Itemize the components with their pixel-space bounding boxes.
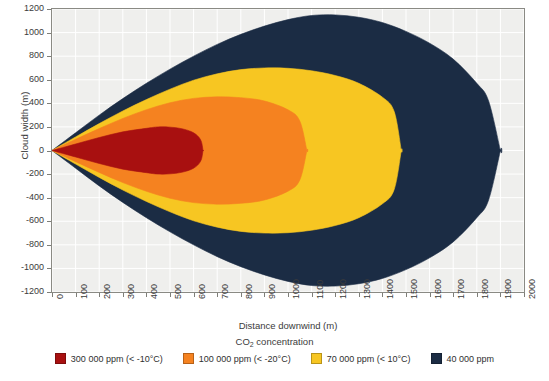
x-tick-label: 1200	[339, 279, 348, 299]
y-tick-label: -600	[0, 216, 44, 225]
legend-swatch-icon	[311, 353, 322, 364]
x-tick-label: 600	[198, 284, 207, 299]
y-tick-label: 800	[0, 51, 44, 60]
x-tick-label: 1500	[410, 279, 419, 299]
y-tick-label: -200	[0, 169, 44, 178]
y-tick-label: 600	[0, 75, 44, 84]
x-tick-mark	[123, 293, 124, 297]
x-tick-mark	[217, 293, 218, 297]
legend-item[interactable]: 100 000 ppm (< -20°C)	[183, 353, 291, 364]
legend-item-label: 300 000 ppm (< -10°C)	[71, 354, 163, 364]
x-tick-mark	[288, 293, 289, 297]
x-tick-label: 800	[245, 284, 254, 299]
x-tick-mark	[453, 293, 454, 297]
x-tick-mark	[382, 293, 383, 297]
x-tick-label: 1800	[481, 279, 490, 299]
x-tick-mark	[406, 293, 407, 297]
x-tick-label: 2000	[528, 279, 537, 299]
legend-item-label: 100 000 ppm (< -20°C)	[199, 354, 291, 364]
x-tick-label: 1900	[504, 279, 513, 299]
chart-container: Cloud width (m) 120010008006004002000-20…	[0, 0, 549, 381]
y-tick-label: -800	[0, 240, 44, 249]
x-tick-mark	[194, 293, 195, 297]
x-tick-mark	[76, 293, 77, 297]
x-tick-label: 1400	[386, 279, 395, 299]
x-tick-label: 400	[150, 284, 159, 299]
y-tick-label: -1200	[0, 287, 44, 296]
x-tick-mark	[359, 293, 360, 297]
x-tick-label: 1600	[434, 279, 443, 299]
x-tick-mark	[500, 293, 501, 297]
x-tick-mark	[524, 293, 525, 297]
x-tick-mark	[312, 293, 313, 297]
legend-item[interactable]: 300 000 ppm (< -10°C)	[55, 353, 163, 364]
y-tick-label: -1000	[0, 263, 44, 272]
x-tick-mark	[99, 293, 100, 297]
y-tick-label: 0	[0, 146, 44, 155]
x-tick-mark	[477, 293, 478, 297]
y-tick-label: -400	[0, 193, 44, 202]
legend-item[interactable]: 40 000 ppm	[431, 353, 495, 364]
legend-swatch-icon	[55, 353, 66, 364]
x-tick-label: 1700	[457, 279, 466, 299]
legend: CO2 concentration 300 000 ppm (< -10°C)1…	[0, 336, 549, 364]
x-tick-label: 900	[268, 284, 277, 299]
legend-title-suffix: concentration	[254, 336, 314, 347]
x-tick-mark	[335, 293, 336, 297]
legend-items: 300 000 ppm (< -10°C)100 000 ppm (< -20°…	[0, 353, 549, 364]
plume-layers	[52, 15, 502, 287]
x-tick-label: 1000	[292, 279, 301, 299]
x-tick-label: 100	[80, 284, 89, 299]
x-tick-label: 700	[221, 284, 230, 299]
plume-plot	[52, 9, 524, 292]
x-tick-mark	[264, 293, 265, 297]
x-tick-mark	[52, 293, 53, 297]
legend-item-label: 40 000 ppm	[447, 354, 495, 364]
y-tick-label: 1000	[0, 28, 44, 37]
legend-swatch-icon	[183, 353, 194, 364]
x-tick-label: 1100	[316, 280, 325, 299]
legend-title: CO2 concentration	[0, 336, 549, 348]
legend-title-prefix: CO	[236, 336, 250, 347]
legend-item[interactable]: 70 000 ppm (< 10°C)	[311, 353, 411, 364]
legend-item-label: 70 000 ppm (< 10°C)	[327, 354, 411, 364]
x-tick-label: 200	[103, 284, 112, 299]
x-tick-mark	[430, 293, 431, 297]
x-tick-label: 300	[127, 284, 136, 299]
x-tick-mark	[170, 293, 171, 297]
x-tick-label: 1300	[363, 279, 372, 299]
plot-area	[51, 8, 525, 293]
x-tick-mark	[146, 293, 147, 297]
x-tick-label: 500	[174, 284, 183, 299]
legend-swatch-icon	[431, 353, 442, 364]
x-tick-label: 0	[56, 294, 65, 299]
x-axis-label: Distance downwind (m)	[51, 320, 525, 331]
x-tick-mark	[241, 293, 242, 297]
y-tick-label: 400	[0, 98, 44, 107]
y-tick-label: 1200	[0, 4, 44, 13]
y-tick-label: 200	[0, 122, 44, 131]
